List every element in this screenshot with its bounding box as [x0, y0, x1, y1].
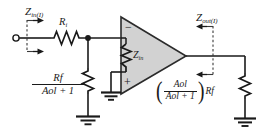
expression-input-impedance: Rf Aol + 1 — [32, 72, 84, 96]
ground-opamp-noninverting — [101, 93, 121, 100]
output-impedance-numerator: Aol — [164, 80, 197, 90]
label-z-out-closed-loop: Zout(I) — [196, 12, 218, 25]
input-impedance-numerator: Rf — [32, 72, 84, 83]
series-resistor-Ri — [51, 32, 82, 45]
label-z-in-closed-loop: Zin(I) — [25, 6, 43, 19]
input-impedance-denominator: Aol + 1 — [32, 85, 84, 96]
input-port-annotation — [27, 18, 44, 55]
input-terminal-circle — [13, 35, 19, 41]
output-impedance-trailing-Rf: Rf — [205, 86, 213, 96]
opamp-inverting-input-sign: − — [125, 21, 132, 33]
shunt-resistor-left — [83, 68, 94, 94]
output-port-annotation — [196, 24, 213, 78]
output-impedance-close-paren: ) — [198, 80, 205, 102]
circuit-diagram-figure: Zin(I) Ri − + Zin Zout(I) Rf Aol + 1 ( A… — [0, 0, 263, 136]
load-resistor-right — [240, 73, 251, 99]
expression-output-impedance: ( Aol Aol + 1 ) Rf — [155, 80, 214, 102]
ground-left-shunt — [76, 117, 100, 125]
label-series-resistor-Ri: Ri — [59, 17, 67, 28]
output-impedance-fraction: Aol Aol + 1 — [164, 80, 197, 102]
output-impedance-denominator: Aol + 1 — [164, 92, 197, 102]
label-z-in-opamp: Zin — [133, 50, 143, 61]
opamp-noninverting-input-sign: + — [124, 76, 131, 88]
output-impedance-open-paren: ( — [156, 80, 163, 102]
ground-right-load — [234, 119, 256, 127]
input-arrow-bottom-head — [38, 49, 45, 55]
